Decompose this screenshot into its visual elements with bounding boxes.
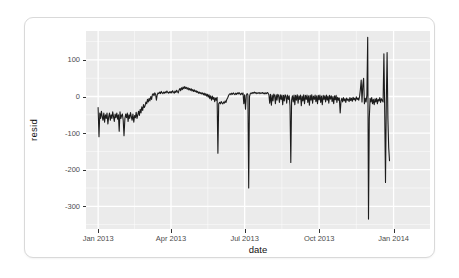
x-tick-label: Jan 2014	[367, 234, 421, 243]
y-tick-mark	[83, 97, 87, 98]
x-tick-mark	[98, 229, 99, 233]
y-tick-mark	[83, 170, 87, 171]
x-tick-mark	[245, 229, 246, 233]
x-axis-title: date	[86, 244, 430, 255]
y-tick-label: -300	[25, 202, 80, 211]
x-tick-mark	[319, 229, 320, 233]
x-tick-label: Oct 2013	[292, 234, 346, 243]
y-tick-label: -200	[25, 165, 80, 174]
x-tick-label: Jul 2013	[218, 234, 272, 243]
x-tick-mark	[171, 229, 172, 233]
y-tick-mark	[83, 60, 87, 61]
x-tick-mark	[394, 229, 395, 233]
y-tick-label: 100	[25, 55, 80, 64]
plot-card: resid date 1000-100-200-300 Jan 2013Apr …	[24, 17, 435, 258]
plot-svg	[86, 31, 430, 229]
y-tick-label: -100	[25, 129, 80, 138]
y-tick-label: 0	[25, 92, 80, 101]
y-tick-mark	[83, 133, 87, 134]
resid-line	[98, 37, 389, 219]
plot-panel	[86, 31, 430, 229]
y-tick-mark	[83, 206, 87, 207]
x-tick-label: Apr 2013	[144, 234, 198, 243]
x-tick-label: Jan 2013	[71, 234, 125, 243]
